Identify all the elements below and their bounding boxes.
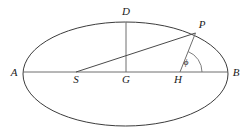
point-label-a: A — [10, 66, 18, 78]
point-label-h: H — [173, 73, 183, 85]
point-label-s: S — [73, 73, 79, 85]
radius-vector-line-sp — [76, 33, 196, 72]
angle-label-phi: ϕ — [184, 57, 189, 67]
point-label-g: G — [122, 73, 130, 85]
angle-arc-phi — [188, 52, 202, 72]
point-label-d: D — [121, 5, 130, 17]
ellipse-geometry-figure: A S G H B D P ϕ — [0, 0, 250, 136]
ellipse-diagram-canvas: A S G H B D P ϕ — [0, 0, 250, 136]
point-label-p: P — [198, 18, 206, 30]
point-label-b: B — [233, 66, 240, 78]
